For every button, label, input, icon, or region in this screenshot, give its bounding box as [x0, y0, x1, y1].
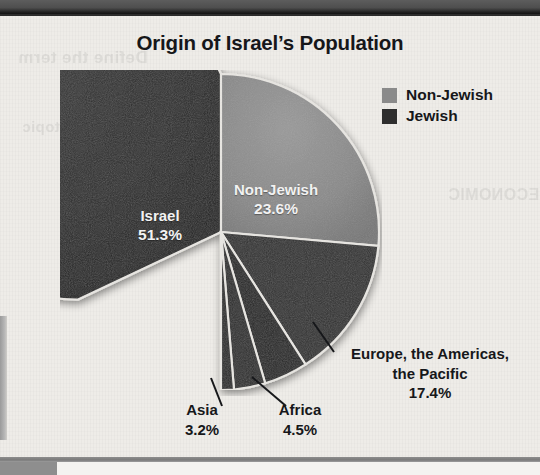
scan-top-band-edge	[0, 13, 540, 16]
page-bottom-tab	[0, 462, 57, 475]
ghost-text-line3: ECONOMIC	[448, 186, 539, 204]
legend-item-jewish[interactable]: Jewish	[382, 107, 493, 125]
chart-legend: Non-Jewish Jewish	[382, 86, 493, 128]
slice-label-israel-percent: 51.3%	[95, 225, 225, 245]
callout-europe-americas-pacific: Europe, the Americas, the Pacific 17.4%	[330, 344, 530, 403]
legend-label-jewish: Jewish	[406, 107, 458, 125]
slice-label-non-jewish-percent: 23.6%	[211, 199, 341, 219]
slice-label-israel-name: Israel	[95, 206, 225, 225]
callout-europe-line2: the Pacific	[330, 364, 530, 384]
callout-asia-percent: 3.2%	[166, 420, 238, 440]
legend-item-non-jewish[interactable]: Non-Jewish	[382, 86, 493, 104]
legend-swatch-non-jewish-icon	[382, 88, 397, 103]
callout-africa-percent: 4.5%	[263, 420, 337, 440]
scan-left-notch	[0, 316, 7, 440]
legend-swatch-jewish-icon	[382, 109, 397, 124]
pie-slice-israel[interactable]	[60, 70, 221, 300]
callout-asia-name: Asia	[166, 400, 238, 420]
page-bottom-strip	[0, 462, 540, 475]
chart-title: Origin of Israel’s Population	[0, 31, 540, 55]
callout-africa-name: Africa	[263, 400, 337, 420]
legend-label-non-jewish: Non-Jewish	[406, 86, 493, 104]
slice-label-israel: Israel 51.3%	[95, 206, 225, 245]
pie-slice-non-jewish[interactable]	[221, 74, 379, 246]
scanned-page: Define the term a topic ECONOMIC Origin …	[0, 0, 540, 475]
callout-europe-percent: 17.4%	[330, 383, 530, 403]
slice-label-non-jewish: Non-Jewish 23.6%	[211, 180, 341, 219]
slice-label-non-jewish-name: Non-Jewish	[211, 180, 341, 199]
callout-europe-line1: Europe, the Americas,	[330, 344, 530, 364]
scan-top-band	[0, 0, 540, 14]
callout-asia: Asia 3.2%	[166, 400, 238, 439]
callout-africa: Africa 4.5%	[263, 400, 337, 439]
